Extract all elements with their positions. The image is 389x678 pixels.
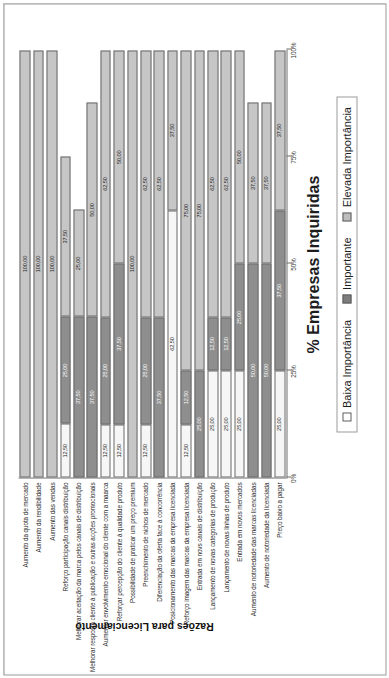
bar-value-label: 37,50 xyxy=(169,123,175,137)
bar-value-label: 12,50 xyxy=(183,444,189,458)
legend-item[interactable]: Baixa Importância xyxy=(340,319,352,421)
category-label: Aumento da rendibilidade xyxy=(34,478,41,678)
bar-value-label: 25,00 xyxy=(142,364,148,378)
bar-segment-imp: 25,00 xyxy=(140,317,151,424)
bar-value-label: 12,50 xyxy=(223,337,229,351)
bar-segment-imp: 12,50 xyxy=(180,370,191,423)
bar-segment-elev: 62,50 xyxy=(220,50,231,317)
bar-value-label: 37,50 xyxy=(263,176,269,190)
bar-segment-baixa: 12,50 xyxy=(100,424,111,477)
bar-value-label: 12,50 xyxy=(116,444,122,458)
bar-row: 100,00 xyxy=(127,50,138,477)
bar-row: 100,00 xyxy=(19,50,30,477)
bar-segment-imp: 37,50 xyxy=(153,317,164,477)
bar-row: 25,0075,00 xyxy=(194,50,205,477)
bar-value-label: 75,00 xyxy=(183,203,189,217)
bar-value-label: 37,50 xyxy=(276,283,282,297)
bar-segment-elev: 75,00 xyxy=(180,50,191,370)
category-label: Lançamento de novas categorias de produç… xyxy=(208,478,215,678)
x-axis-line xyxy=(286,49,287,478)
x-axis-title: % Empresas Inquiridas xyxy=(304,50,322,478)
x-axis-tick-label: 50% xyxy=(289,258,296,270)
bar-segment-elev: 37,50 xyxy=(167,50,178,210)
bar-segment-imp: 37,50 xyxy=(274,210,285,370)
bar-segment-baixa: 62,50 xyxy=(167,210,178,477)
bar-segment-imp: 12,50 xyxy=(207,317,218,370)
legend-item[interactable]: Elevada Importância xyxy=(340,107,352,221)
bar-value-label: 37,50 xyxy=(156,390,162,404)
bar-segment-elev: 37,50 xyxy=(60,156,71,317)
bar-segment-elev: 100,00 xyxy=(127,50,138,477)
bar-value-label: 12,50 xyxy=(142,444,148,458)
bar-value-label: 37,50 xyxy=(250,176,256,190)
legend-box: Baixa ImportânciaImportanteElevada Impor… xyxy=(336,96,357,433)
bar-segment-imp: 25,00 xyxy=(100,317,111,424)
x-gridline xyxy=(18,155,286,156)
bar-segment-imp: 25,00 xyxy=(60,317,71,424)
bar-value-label: 25,00 xyxy=(276,417,282,431)
bar-segment-elev: 37,50 xyxy=(261,103,272,264)
bar-row: 12,5012,5075,00 xyxy=(180,50,191,477)
bar-value-label: 37,50 xyxy=(276,123,282,137)
bar-segment-elev: 100,00 xyxy=(46,50,57,477)
category-label: Melhorar resposta cliente à publicação e… xyxy=(88,478,95,678)
bar-segment-imp: 37,50 xyxy=(73,317,84,478)
bar-segment-imp: 50,00 xyxy=(247,263,258,477)
bar-value-label: 25,00 xyxy=(209,417,215,431)
bar-segment-imp: 37,50 xyxy=(113,264,124,424)
bar-row: 100,00 xyxy=(33,50,44,477)
category-label: Diferenciação da oferta face à concorrên… xyxy=(155,478,162,678)
bar-segment-imp: 25,00 xyxy=(234,264,245,371)
category-label: Entrada em novos mercados xyxy=(235,478,242,678)
plot-area: 100,00100,00100,0012,5025,0037,5037,5025… xyxy=(18,50,286,478)
bar-value-label: 62,50 xyxy=(142,177,148,191)
bar-segment-baixa: 12,50 xyxy=(60,424,71,478)
bar-segment-elev: 25,00 xyxy=(73,210,84,317)
category-label: Aumento de notoriedade da licenciada xyxy=(262,478,269,678)
bar-value-label: 37,50 xyxy=(116,337,122,351)
bar-row: 37,5062,50 xyxy=(153,50,164,477)
bar-segment-baixa: 25,00 xyxy=(207,370,218,477)
bar-segment-baixa: 25,00 xyxy=(220,370,231,477)
category-label: Entrada em novs canais de distribuição xyxy=(195,478,202,678)
bar-segment-elev: 75,00 xyxy=(194,50,205,370)
category-label: Reforço imagem das marcas da empresa lic… xyxy=(182,478,189,678)
bar-value-label: 62,50 xyxy=(209,177,215,191)
legend-item[interactable]: Importante xyxy=(340,237,352,304)
bar-row: 25,0025,0050,00 xyxy=(234,50,245,477)
x-gridline xyxy=(18,369,286,370)
category-label: Melhorar aceitação da marca pelos canais… xyxy=(74,478,81,678)
bar-segment-elev: 100,00 xyxy=(33,50,44,477)
bar-value-label: 25,00 xyxy=(196,417,202,431)
category-label: Aumento da quota de mercado xyxy=(21,478,28,678)
bar-row: 25,0037,5037,50 xyxy=(274,50,285,477)
x-axis-tick-label: 75% xyxy=(289,151,296,163)
category-label-column: Aumento da quota de mercadoAumento da re… xyxy=(18,478,286,674)
legend-swatch-icon xyxy=(342,212,351,221)
category-label: Aumento de notoriedade das marcas licenc… xyxy=(249,478,256,678)
bar-segment-imp: 12,50 xyxy=(220,317,231,370)
bar-value-label: 100,00 xyxy=(49,255,55,272)
bar-value-label: 25,00 xyxy=(236,417,242,431)
bar-value-label: 25,00 xyxy=(62,363,68,377)
bar-segment-baixa: 25,00 xyxy=(274,370,285,477)
legend-swatch-icon xyxy=(342,294,351,303)
legend-label: Elevada Importância xyxy=(340,107,352,207)
bar-row: 25,0012,5062,50 xyxy=(220,50,231,477)
bar-segment-elev: 50,00 xyxy=(113,50,124,264)
bar-value-label: 50,00 xyxy=(250,363,256,377)
bar-segment-elev: 62,50 xyxy=(140,50,151,317)
bar-value-label: 37,50 xyxy=(75,390,81,404)
bar-row: 12,5025,0037,50 xyxy=(60,50,71,477)
bar-value-label: 62,50 xyxy=(169,337,175,351)
bar-value-label: 25,00 xyxy=(223,417,229,431)
bar-segment-elev: 37,50 xyxy=(247,103,258,264)
bar-row: 37,5025,00 xyxy=(73,50,84,477)
category-label: Aumento das vendas xyxy=(48,478,55,678)
bar-value-label: 25,00 xyxy=(236,310,242,324)
bar-value-label: 25,00 xyxy=(75,256,81,270)
legend-label: Importante xyxy=(340,237,352,290)
bar-value-label: 12,50 xyxy=(62,444,68,458)
bar-value-label: 50,00 xyxy=(236,150,242,164)
bar-segment-elev: 100,00 xyxy=(19,50,30,477)
